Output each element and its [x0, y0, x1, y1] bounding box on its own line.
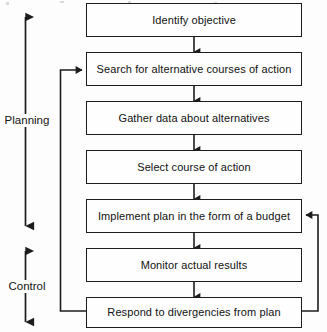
node-identify-objective[interactable]: Identify objective — [86, 3, 302, 37]
connector-feedback-right — [302, 215, 318, 311]
node-label: Respond to divergencies from plan — [107, 306, 280, 319]
node-label: Monitor actual results — [141, 259, 248, 272]
node-label: Select course of action — [137, 161, 251, 174]
flowchart-diagram: Planning Control Identify objective Sear… — [0, 0, 327, 332]
node-implement-plan[interactable]: Implement plan in the form of a budget — [86, 199, 302, 233]
node-label: Gather data about alternatives — [119, 112, 270, 125]
node-search-alternatives[interactable]: Search for alternative courses of action — [86, 52, 302, 86]
node-respond-divergencies[interactable]: Respond to divergencies from plan — [86, 297, 302, 328]
node-label: Implement plan in the form of a budget — [98, 210, 290, 223]
bracket-label-planning: Planning — [0, 114, 54, 127]
bracket-label-control: Control — [0, 280, 54, 293]
node-monitor-results[interactable]: Monitor actual results — [86, 248, 302, 282]
node-label: Identify objective — [152, 14, 236, 27]
node-gather-data[interactable]: Gather data about alternatives — [86, 101, 302, 135]
node-select-course[interactable]: Select course of action — [86, 150, 302, 184]
node-label: Search for alternative courses of action — [97, 63, 292, 76]
connector-feedback-left — [61, 70, 87, 311]
